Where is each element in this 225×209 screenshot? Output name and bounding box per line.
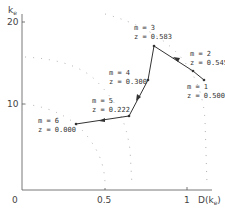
x-tick-label-0: 0	[12, 195, 18, 205]
annotation-m1: m = 1	[187, 83, 208, 91]
y-axis-label: ke	[8, 5, 17, 16]
point-m1	[203, 79, 206, 82]
annotation-m5-z: z = 0.222	[92, 106, 130, 114]
point-m3	[153, 45, 156, 48]
point-m5	[128, 115, 131, 118]
y-tick-label-20: 20	[7, 17, 19, 27]
point-m6	[75, 123, 78, 126]
annotation-m3: m = 3	[134, 24, 155, 32]
point-m2	[192, 70, 195, 73]
chart: ke 20 10 0 0.5 1 D(ke) m = 3 z = 0.583 m…	[0, 0, 225, 209]
annotation-m3-z: z = 0.583	[134, 33, 172, 41]
annotation-m6-z: z = 0.000	[38, 126, 76, 134]
annotation-m2: m = 2	[190, 50, 211, 58]
annotation-m6: m = 6	[38, 117, 59, 125]
dotted-curve-inner	[25, 104, 105, 185]
annotation-m5: m = 5	[92, 97, 113, 105]
x-tick-label-1: 1	[184, 195, 190, 205]
annotation-m4-z: z = 0.300	[109, 78, 147, 86]
x-axis-label: D(ke)	[198, 195, 221, 206]
arrow-icon	[173, 57, 180, 62]
x-tick-label-05: 0.5	[97, 195, 111, 205]
annotation-m2-z: z = 0.545	[190, 59, 225, 67]
annotation-m1-z: z = 0.500	[187, 92, 225, 100]
y-tick-label-10: 10	[7, 99, 19, 109]
point-m4	[147, 79, 150, 82]
annotation-m4: m = 4	[109, 69, 130, 77]
